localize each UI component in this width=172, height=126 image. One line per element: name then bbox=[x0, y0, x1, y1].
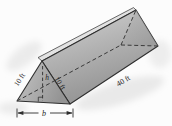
prism-figure: 10 ft 10 ft 40 ft h b bbox=[0, 0, 172, 126]
dimension-arrowhead-right bbox=[67, 111, 73, 115]
label-height-h: h bbox=[45, 73, 49, 82]
label-left-slant-10ft: 10 ft bbox=[12, 71, 28, 88]
prism-diagram-svg: 10 ft 10 ft 40 ft h b bbox=[0, 0, 172, 126]
label-base-b: b bbox=[42, 109, 46, 118]
